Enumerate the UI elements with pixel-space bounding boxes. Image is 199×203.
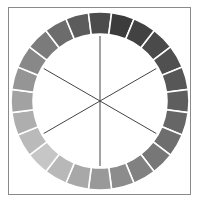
wheel-segment — [11, 89, 34, 112]
wheel-spokes — [44, 36, 157, 166]
color-wheel — [0, 0, 199, 203]
wheel-segment — [166, 89, 189, 112]
wheel-segment — [88, 167, 111, 190]
wheel-segment — [88, 12, 111, 35]
